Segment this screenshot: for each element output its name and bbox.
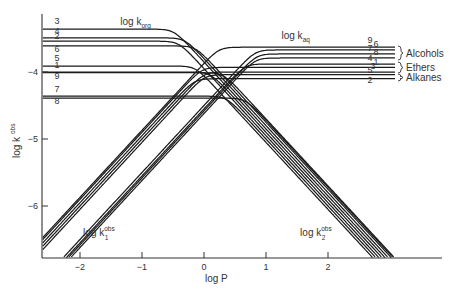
y-axis-title-text: log k obs xyxy=(9,123,22,158)
left-label-3: 3 xyxy=(54,16,59,26)
y-tick-label: −4 xyxy=(28,67,38,77)
x-axis-title: log P xyxy=(205,273,228,284)
x-tick-label: 0 xyxy=(201,262,206,272)
y-tick-label: −6 xyxy=(28,201,38,211)
group-labels: AlcoholsEthersAlkanes xyxy=(398,46,444,83)
x-tick-label: −2 xyxy=(75,262,85,272)
left-label-2: 2 xyxy=(54,31,59,41)
group-label-alcohols: Alcohols xyxy=(406,48,444,59)
x-tick-label: 2 xyxy=(325,262,330,272)
right-label-7: 7 xyxy=(367,43,372,53)
group-label-alkanes: Alkanes xyxy=(406,72,442,83)
chart: −2−1012 −4−5−6 342651978 967841352 Alcoh… xyxy=(0,0,451,297)
brace-alkanes xyxy=(398,74,403,81)
x-tick-label: −1 xyxy=(137,262,147,272)
right-label-5: 5 xyxy=(367,65,372,75)
x-ticks: −2−1012 xyxy=(75,252,331,272)
annotation-aq: log kaq xyxy=(282,30,311,44)
y-axis-title-main: log k xyxy=(11,136,22,158)
right-label-2: 2 xyxy=(367,75,372,85)
curve-aq-series-8 xyxy=(71,58,395,257)
x-axis-title-text: log P xyxy=(205,273,228,284)
curves-group xyxy=(43,29,395,258)
y-axis-title-sup: obs xyxy=(9,123,16,134)
y-axis-title: log k obs xyxy=(9,123,22,158)
y-tick-label: −5 xyxy=(28,134,38,144)
annotation-2: log kobs2 xyxy=(300,225,332,241)
left-series-labels: 342651978 xyxy=(54,16,59,106)
y-ticks: −4−5−6 xyxy=(28,67,48,211)
curve-aq-series-9 xyxy=(43,47,395,237)
x-tick-label: 1 xyxy=(263,262,268,272)
left-label-7: 7 xyxy=(54,84,59,94)
left-label-9: 9 xyxy=(54,71,59,81)
brace-ethers xyxy=(398,62,403,73)
brace-alcohols xyxy=(398,46,403,60)
annotation-org: log korg xyxy=(120,16,151,30)
left-label-1: 1 xyxy=(54,60,59,70)
left-label-8: 8 xyxy=(54,96,59,106)
right-series-labels: 967841352 xyxy=(367,35,378,85)
